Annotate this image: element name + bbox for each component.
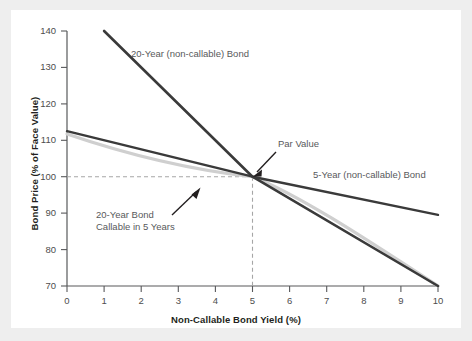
par-value-arrow (253, 152, 277, 177)
y-tick-label-70: 70 (26, 280, 56, 291)
x-axis-title: Non-Callable Bond Yield (%) (0, 314, 472, 325)
x-tick-label-6: 6 (278, 295, 302, 306)
x-tick-label-10: 10 (426, 295, 450, 306)
annotation-callable-bond-note-line1: 20-Year Bond (96, 209, 175, 221)
x-tick-label-3: 3 (166, 295, 190, 306)
x-axis-ticks (67, 286, 438, 292)
annotation-par-value: Par Value (278, 138, 319, 150)
y-axis-ticks (61, 31, 67, 286)
x-tick-label-1: 1 (92, 295, 116, 306)
annotation-callable-bond-note-line2: Callable in 5 Years (96, 221, 175, 233)
y-axis-title: Bond Price (% of Face Value) (29, 64, 40, 264)
chart-figure: 140 130 120 110 100 90 80 70 0 1 2 3 4 5… (0, 0, 472, 341)
x-tick-label-5: 5 (241, 295, 265, 306)
x-tick-label-9: 9 (389, 295, 413, 306)
series-label-5-year-bond: 5-Year (non-callable) Bond (313, 169, 426, 180)
annotation-callable-bond-note: 20-Year Bond Callable in 5 Years (96, 209, 175, 233)
callable-bond-note-arrow (172, 188, 201, 216)
x-tick-label-4: 4 (203, 295, 227, 306)
x-tick-label-7: 7 (315, 295, 339, 306)
y-tick-label-140: 140 (26, 25, 56, 36)
x-tick-label-0: 0 (55, 295, 79, 306)
x-tick-label-8: 8 (352, 295, 376, 306)
x-tick-label-2: 2 (129, 295, 153, 306)
series-label-20-year-bond: 20-Year (non-callable) Bond (131, 48, 249, 59)
